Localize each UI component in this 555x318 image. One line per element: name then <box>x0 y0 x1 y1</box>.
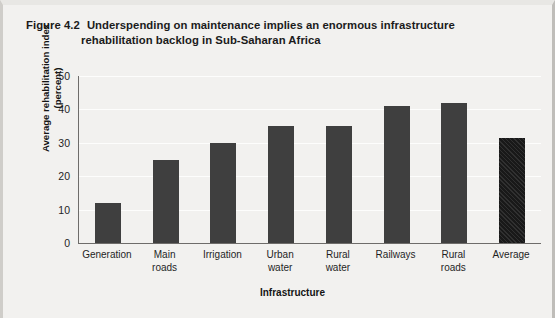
bar-railways <box>384 106 410 243</box>
y-axis-ticks: 50403020100 <box>44 76 70 243</box>
bar-generation <box>95 203 121 243</box>
bar-main-roads <box>153 160 179 244</box>
y-axis-tick-label: 30 <box>58 137 70 149</box>
bar-irrigation <box>210 143 236 243</box>
x-axis-tick-label-line: Generation <box>78 249 136 262</box>
x-axis-tick-label: Irrigation <box>194 249 252 274</box>
bar-average <box>499 138 525 243</box>
bar-slot <box>137 76 195 243</box>
x-axis-tick-label-line: Average <box>482 249 540 262</box>
bar-slot <box>79 76 137 243</box>
x-axis-tick-label: Railways <box>367 249 425 274</box>
bar-rural-roads <box>441 103 467 243</box>
bar-slot <box>195 76 253 243</box>
bar-urban-water <box>268 126 294 243</box>
x-axis-tick-label: Mainroads <box>136 249 194 274</box>
x-axis-tick-label-line: Rural <box>309 249 367 262</box>
bar-slot <box>368 76 426 243</box>
x-axis-tick-label-line: water <box>309 262 367 275</box>
x-axis-tick-label-line: Rural <box>425 249 483 262</box>
bar-rural-water <box>326 126 352 243</box>
x-axis-tick-label-line: roads <box>136 262 194 275</box>
x-axis-ticks: GenerationMainroadsIrrigationUrbanwaterR… <box>78 249 540 274</box>
y-axis-tick-label: 0 <box>64 237 70 249</box>
figure-container: Figure 4.2Underspending on maintenance i… <box>0 0 555 318</box>
x-axis-tick-label-line: Railways <box>367 249 425 262</box>
y-axis-tick-label: 20 <box>58 170 70 182</box>
x-axis-tick-label: Average <box>482 249 540 274</box>
bar-slot <box>426 76 484 243</box>
bar-slot <box>252 76 310 243</box>
x-axis-title: Infrastructure <box>0 287 555 298</box>
y-axis-tick-label: 40 <box>58 103 70 115</box>
x-axis-tick-label-line: water <box>251 262 309 275</box>
x-axis-tick-label: Ruralwater <box>309 249 367 274</box>
bar-series <box>79 76 541 243</box>
x-axis-tick-label: Urbanwater <box>251 249 309 274</box>
bar-slot <box>310 76 368 243</box>
x-axis-tick-label: Generation <box>78 249 136 274</box>
y-axis-tick-label: 50 <box>58 70 70 82</box>
x-axis-tick-label: Ruralroads <box>425 249 483 274</box>
chart: Average rehabilitation index (percent) 5… <box>0 0 555 318</box>
x-axis-tick-label-line: roads <box>425 262 483 275</box>
x-axis-tick-label-line: Main <box>136 249 194 262</box>
x-axis-tick-label-line: Urban <box>251 249 309 262</box>
bar-slot <box>483 76 541 243</box>
y-axis-tick-label: 10 <box>58 204 70 216</box>
plot-area <box>78 76 541 244</box>
x-axis-tick-label-line: Irrigation <box>194 249 252 262</box>
